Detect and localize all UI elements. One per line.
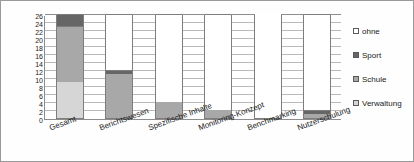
legend-label: Schule <box>362 75 386 84</box>
bar-slot[interactable] <box>144 16 194 119</box>
legend-swatch-icon <box>353 76 359 82</box>
y-axis-labels: 26242220181614121086420 <box>19 10 43 126</box>
y-tick-label: 22 <box>35 29 43 36</box>
bar-slot[interactable] <box>95 16 145 119</box>
legend-label: Sport <box>362 51 381 60</box>
legend-item[interactable]: ohne <box>353 19 413 43</box>
y-tick-label: 12 <box>35 69 43 76</box>
gridline <box>45 14 341 15</box>
bar-segment-ohne[interactable] <box>106 14 132 70</box>
legend-item[interactable]: Verwaltung <box>353 91 413 115</box>
y-tick-label: 26 <box>35 13 43 20</box>
chart-legend: ohneSportSchuleVerwaltung <box>353 19 413 115</box>
legend-swatch-icon <box>353 28 359 34</box>
y-tick-label: 16 <box>35 53 43 60</box>
stacked-bar[interactable] <box>155 15 183 119</box>
legend-swatch-icon <box>353 100 359 106</box>
y-tick-label: 14 <box>35 61 43 68</box>
bar-slot[interactable] <box>45 16 95 119</box>
bar-segment-ohne[interactable] <box>156 14 182 102</box>
stacked-bar[interactable] <box>105 15 133 119</box>
y-tick-label: 2 <box>39 109 43 116</box>
legend-swatch-icon <box>353 52 359 58</box>
y-tick-label: 10 <box>35 77 43 84</box>
chart-frame: 26242220181614121086420 GesamtBerichtswe… <box>0 0 414 162</box>
legend-item[interactable]: Schule <box>353 67 413 91</box>
bar-segment-ohne[interactable] <box>205 14 231 110</box>
stacked-bar[interactable] <box>303 15 331 119</box>
bar-segment-schule[interactable] <box>57 26 83 82</box>
bar-slot[interactable] <box>293 16 343 119</box>
bar-segment-sport[interactable] <box>57 14 83 26</box>
x-axis-labels: GesamtBerichtswesenSpezifische InhalteMo… <box>1 120 414 162</box>
bar-segment-schule[interactable] <box>106 74 132 118</box>
y-tick-label: 18 <box>35 45 43 52</box>
bar-segment-ohne[interactable] <box>304 14 330 110</box>
y-tick-label: 4 <box>39 101 43 108</box>
y-tick-label: 24 <box>35 21 43 28</box>
bar-segment-sport[interactable] <box>106 70 132 74</box>
plot-area <box>44 16 341 120</box>
stacked-bar[interactable] <box>56 15 84 119</box>
legend-item[interactable]: Sport <box>353 43 413 67</box>
legend-label: ohne <box>362 27 380 36</box>
legend-label: Verwaltung <box>362 99 402 108</box>
bar-segment-verwaltung[interactable] <box>57 82 83 118</box>
y-tick-label: 8 <box>39 85 43 92</box>
y-tick-label: 20 <box>35 37 43 44</box>
y-tick-label: 6 <box>39 93 43 100</box>
